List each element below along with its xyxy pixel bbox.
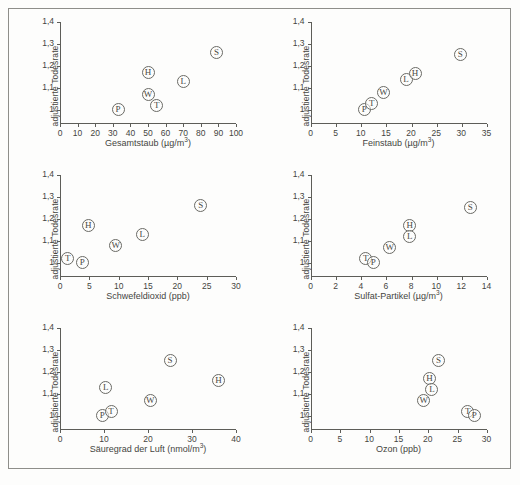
data-point-marker: H — [82, 219, 95, 232]
y-axis-tick-label: 1,3 — [277, 38, 305, 48]
y-axis-tick-label: 1 — [26, 410, 54, 420]
x-axis-tick — [236, 430, 237, 433]
y-axis-tick — [57, 372, 60, 373]
data-point-marker: T — [61, 252, 74, 265]
x-axis-tick — [336, 277, 337, 280]
x-axis-label: Säuregrad der Luft (nmol/m3) — [60, 442, 236, 454]
x-axis-label-text: Gesamtstaub (µg/m — [105, 138, 184, 148]
plot-area: adjustierte Todesrate11,11,21,31,4024681… — [260, 162, 511, 315]
x-axis-tick-label: 10 — [105, 281, 133, 291]
x-axis-tick — [148, 430, 149, 433]
x-axis-tick-label: 20 — [163, 281, 191, 291]
x-axis-label-text: Feinstaub (µg/m — [363, 138, 428, 148]
data-point-marker: H — [409, 67, 422, 80]
y-axis-tick-label: 1,3 — [26, 191, 54, 201]
y-axis-tick — [57, 263, 60, 264]
x-axis-label-tail: ) — [203, 444, 206, 454]
x-axis-label: Ozon (ppb) — [311, 444, 487, 454]
x-axis-tick — [487, 124, 488, 127]
y-axis-tick — [57, 22, 60, 23]
x-axis-tick — [104, 430, 105, 433]
x-axis-tick — [487, 277, 488, 280]
y-axis-tick — [308, 350, 311, 351]
y-axis-tick — [57, 88, 60, 89]
x-axis-tick — [311, 430, 312, 433]
x-axis-tick-label: 5 — [326, 434, 354, 444]
scatter-panel: adjustierte Todesrate11,11,21,31,4051015… — [260, 315, 511, 468]
y-axis-line — [60, 328, 61, 429]
y-axis-tick-label: 1,3 — [277, 344, 305, 354]
data-point-marker: P — [468, 409, 481, 422]
x-axis-label-text: Säuregrad der Luft (nmol/m — [90, 444, 200, 454]
x-axis-tick — [60, 124, 61, 127]
x-axis-tick — [437, 124, 438, 127]
x-axis-tick-label: 30 — [473, 434, 501, 444]
data-point-marker: S — [432, 354, 445, 367]
scatter-panel: adjustierte Todesrate11,11,21,31,4051015… — [9, 162, 260, 315]
data-point-marker: W — [383, 241, 396, 254]
x-axis-tick — [386, 124, 387, 127]
x-axis-tick — [183, 124, 184, 127]
x-axis-tick — [119, 277, 120, 280]
x-axis-tick-label: 15 — [134, 281, 162, 291]
scatter-panel: adjustierte Todesrate11,11,21,31,4010203… — [9, 315, 260, 468]
y-axis-tick-label: 1,4 — [26, 169, 54, 179]
scatter-panel: adjustierte Todesrate11,11,21,31,4010203… — [9, 9, 260, 162]
data-point-marker: S — [210, 46, 223, 59]
x-axis-tick — [399, 430, 400, 433]
y-axis-tick — [308, 66, 311, 67]
x-axis-tick — [437, 277, 438, 280]
y-axis-tick — [57, 416, 60, 417]
data-point-marker: T — [150, 99, 163, 112]
y-axis-tick-label: 1,4 — [277, 16, 305, 26]
x-axis-label: Schwefeldioxid (ppb) — [60, 291, 236, 301]
y-axis-tick-label: 1,1 — [26, 82, 54, 92]
plot-area: adjustierte Todesrate11,11,21,31,4051015… — [260, 315, 511, 468]
x-axis-tick-label: 10 — [355, 434, 383, 444]
data-point-marker: S — [164, 354, 177, 367]
x-axis-tick-label: 15 — [385, 434, 413, 444]
data-point-marker: L — [99, 381, 112, 394]
y-axis-tick — [57, 394, 60, 395]
x-axis-tick — [201, 124, 202, 127]
x-axis-label-tail: ) — [431, 138, 434, 148]
y-axis-tick-label: 1 — [26, 257, 54, 267]
data-point-marker: P — [112, 103, 125, 116]
x-axis-tick — [192, 430, 193, 433]
y-axis-tick — [57, 328, 60, 329]
x-axis-tick-label: 0 — [297, 434, 325, 444]
x-axis-tick — [370, 430, 371, 433]
y-axis-line — [311, 22, 312, 123]
y-axis-tick — [57, 44, 60, 45]
x-axis-tick — [78, 124, 79, 127]
y-axis-tick — [57, 241, 60, 242]
x-axis-tick — [60, 430, 61, 433]
x-axis-tick-label: 0 — [46, 281, 74, 291]
plot-area: adjustierte Todesrate11,11,21,31,4010203… — [9, 315, 260, 468]
x-axis-tick — [361, 277, 362, 280]
x-axis-label-tail: ) — [440, 291, 443, 301]
x-axis-tick — [412, 277, 413, 280]
x-axis-tick — [336, 124, 337, 127]
y-axis-tick — [308, 219, 311, 220]
scatter-panel: adjustierte Todesrate11,11,21,31,4024681… — [260, 162, 511, 315]
data-point-marker: S — [194, 199, 207, 212]
x-axis-tick — [130, 124, 131, 127]
x-axis-tick — [177, 277, 178, 280]
x-axis-tick-label: 5 — [75, 281, 103, 291]
data-point-marker: S — [464, 201, 477, 214]
y-axis-tick-label: 1,1 — [277, 388, 305, 398]
y-axis-tick-label: 1,2 — [277, 366, 305, 376]
y-axis-tick — [57, 110, 60, 111]
y-axis-tick-label: 1,2 — [26, 60, 54, 70]
x-axis-tick — [236, 277, 237, 280]
x-axis-tick — [166, 124, 167, 127]
y-axis-tick-label: 1 — [277, 410, 305, 420]
data-point-marker: L — [403, 230, 416, 243]
y-axis-tick-label: 1 — [277, 257, 305, 267]
y-axis-line — [311, 175, 312, 276]
plot-area: adjustierte Todesrate11,11,21,31,4051015… — [260, 9, 511, 162]
data-point-marker: W — [109, 239, 122, 252]
x-axis-label: Sulfat-Partikel (µg/m3) — [311, 289, 487, 301]
y-axis-tick-label: 1,3 — [26, 344, 54, 354]
